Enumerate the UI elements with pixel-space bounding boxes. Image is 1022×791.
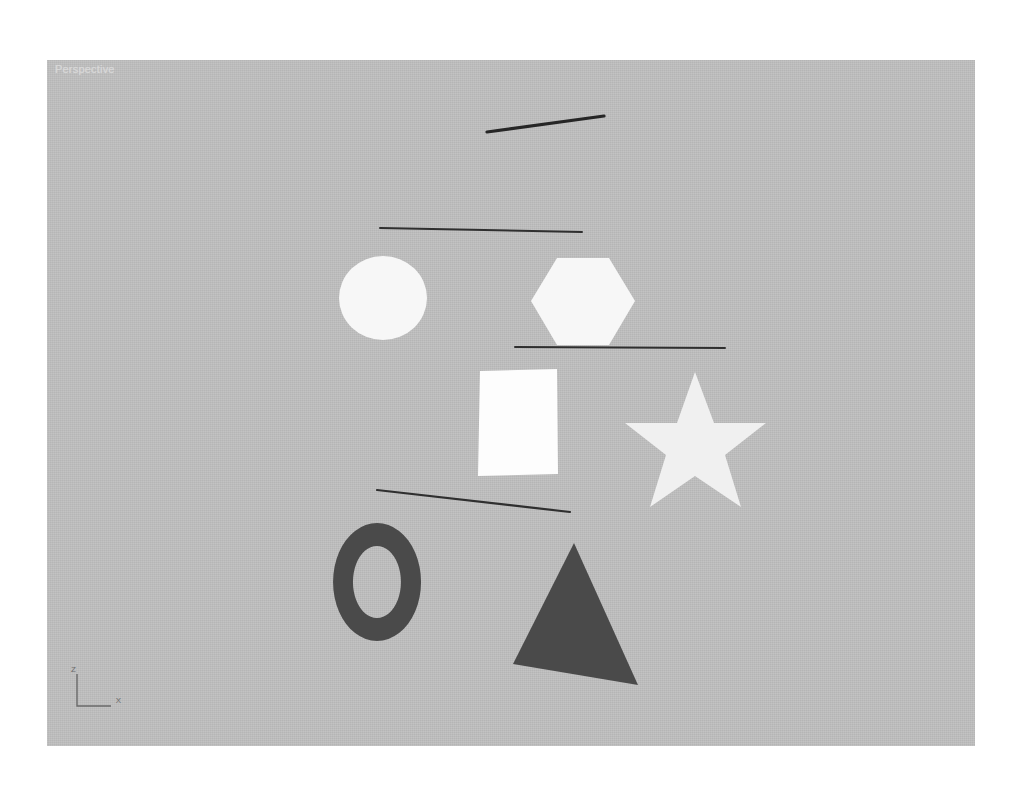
perspective-viewport[interactable]: Perspective — [47, 60, 975, 746]
axis-label-x: X — [116, 697, 121, 705]
shape-triangle[interactable] — [513, 543, 638, 685]
shape-donut[interactable] — [333, 523, 421, 641]
line-horizontal-top[interactable] — [380, 228, 582, 232]
line-diagonal[interactable] — [487, 116, 604, 132]
axis-tripod-glyph — [69, 666, 121, 714]
axis-tripod: Z X — [69, 666, 121, 714]
application-root: Perspective — [0, 0, 1022, 791]
scene-canvas[interactable] — [47, 60, 975, 746]
shape-star[interactable] — [625, 372, 766, 507]
line-horizontal-middle[interactable] — [515, 347, 725, 348]
line-horizontal-bottom[interactable] — [377, 490, 570, 512]
shape-hexagon[interactable] — [531, 258, 635, 345]
shape-rectangle[interactable] — [478, 369, 558, 476]
shape-circle[interactable] — [339, 256, 427, 340]
axis-label-z: Z — [71, 666, 76, 674]
viewport-label[interactable]: Perspective — [55, 63, 115, 76]
